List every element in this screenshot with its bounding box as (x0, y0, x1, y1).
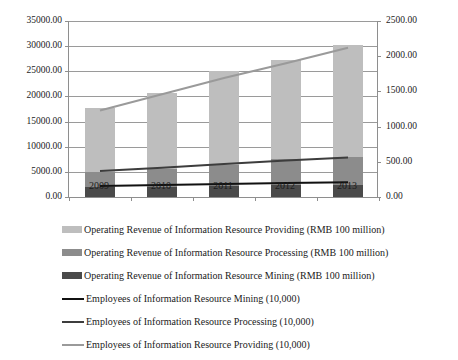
legend-item-label: Operating Revenue of Information Resourc… (84, 247, 388, 258)
line-series (100, 158, 348, 171)
legend-swatch-icon (62, 272, 82, 279)
left-axis-tick-label: 10000.00 (0, 142, 62, 152)
legend-item-label: Employees of Information Resource Proces… (86, 316, 314, 327)
legend-item: Operating Revenue of Information Resourc… (62, 246, 388, 259)
legend-item-label: Employees of Information Resource Provid… (86, 339, 310, 350)
stacked-bar-line-chart: 0.005000.0010000.0015000.0020000.0025000… (0, 0, 458, 215)
x-axis-label: 2011 (193, 180, 253, 191)
x-axis-label: 2010 (131, 180, 191, 191)
x-axis-label: 2012 (255, 180, 315, 191)
chart-legend: Operating Revenue of Information Resourc… (0, 215, 458, 360)
x-axis-tick (193, 197, 194, 201)
right-axis-tick-label: 1500.00 (386, 86, 417, 96)
x-axis-tick (255, 197, 256, 201)
line-series-group (69, 21, 379, 197)
x-axis-tick (379, 197, 380, 201)
left-axis-tick-label: 0.00 (0, 192, 62, 202)
legend-line-icon (62, 298, 84, 300)
right-axis-tick-label: 2000.00 (386, 51, 417, 61)
gridline (69, 197, 377, 198)
right-axis-tick-label: 500.00 (386, 157, 412, 167)
legend-item: Operating Revenue of Information Resourc… (62, 269, 375, 282)
x-axis-tick (317, 197, 318, 201)
left-axis-tick-label: 15000.00 (0, 117, 62, 127)
legend-item: Operating Revenue of Information Resourc… (62, 223, 385, 236)
plot-area (68, 21, 378, 197)
legend-swatch-icon (62, 226, 82, 233)
legend-item-label: Employees of Information Resource Mining… (86, 293, 300, 304)
left-axis-tick-label: 5000.00 (0, 167, 62, 177)
x-axis-label: 2009 (69, 180, 129, 191)
right-axis-tick-label: 0.00 (386, 192, 403, 202)
plot-wrapper: 0.005000.0010000.0015000.0020000.0025000… (0, 0, 458, 215)
left-axis-tick-label: 20000.00 (0, 91, 62, 101)
legend-item: Employees of Information Resource Proces… (62, 315, 314, 328)
line-series (100, 48, 348, 111)
legend-item-label: Operating Revenue of Information Resourc… (84, 270, 375, 281)
legend-item: Employees of Information Resource Provid… (62, 338, 310, 351)
legend-item-label: Operating Revenue of Information Resourc… (84, 224, 385, 235)
legend-swatch-icon (62, 249, 82, 256)
left-axis-tick-label: 35000.00 (0, 16, 62, 26)
x-axis-label: 2013 (317, 180, 377, 191)
left-axis-tick-label: 30000.00 (0, 41, 62, 51)
chart-screenshot: 0.005000.0010000.0015000.0020000.0025000… (0, 0, 458, 360)
right-axis-tick-label: 1000.00 (386, 122, 417, 132)
legend-item: Employees of Information Resource Mining… (62, 292, 300, 305)
legend-line-icon (62, 344, 84, 346)
right-axis-tick-label: 2500.00 (386, 16, 417, 26)
legend-line-icon (62, 321, 84, 323)
left-axis-tick-label: 25000.00 (0, 66, 62, 76)
x-axis-tick (69, 197, 70, 201)
x-axis-tick (131, 197, 132, 201)
